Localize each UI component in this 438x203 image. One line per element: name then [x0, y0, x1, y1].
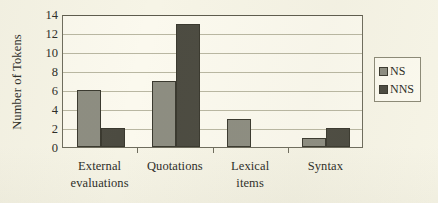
legend: NSNNS [374, 57, 421, 102]
y-axis-tick-labels: 02468101214 [30, 8, 58, 156]
legend-swatch-nns [379, 85, 388, 94]
bar-nns-3 [326, 128, 350, 147]
category-label-line1: Lexical [231, 159, 269, 173]
y-tick-label: 4 [30, 103, 58, 117]
y-tick-label: 8 [30, 65, 58, 79]
x-axis-ticks [62, 148, 363, 154]
x-tick [213, 148, 214, 153]
legend-label: NNS [390, 83, 414, 95]
legend-item-nns: NNS [379, 80, 420, 98]
y-tick-label: 6 [30, 84, 58, 98]
legend-swatch-ns [379, 67, 388, 76]
bar-ns-0 [77, 90, 101, 147]
legend-label: NS [390, 65, 405, 77]
bar-ns-1 [152, 81, 176, 148]
y-tick-label: 2 [30, 122, 58, 136]
category-label-line1: Quotations [147, 159, 203, 173]
bars-layer [63, 16, 362, 147]
y-axis-title: Number of Tokens [6, 14, 28, 150]
bar-chart-figure: Number of Tokens 02468101214 Externaleva… [0, 0, 438, 203]
legend-item-ns: NS [379, 62, 420, 80]
y-tick-label: 10 [30, 46, 58, 60]
category-label-line2: evaluations [54, 175, 145, 192]
y-tick-label: 0 [30, 141, 58, 155]
bar-nns-1 [176, 24, 200, 148]
y-axis-title-text: Number of Tokens [10, 34, 25, 130]
x-axis-category-labels: ExternalevaluationsQuotationsLexicalitem… [62, 158, 363, 202]
y-tick-label: 12 [30, 27, 58, 41]
plot-area [62, 15, 363, 148]
category-label-line2: items [205, 175, 296, 192]
category-label: Syntax [280, 158, 371, 175]
category-label-line1: External [78, 159, 121, 173]
bar-ns-3 [302, 138, 326, 148]
x-tick [288, 148, 289, 153]
category-label-line1: Syntax [308, 159, 343, 173]
bar-ns-2 [227, 119, 251, 148]
y-tick-label: 14 [30, 8, 58, 22]
bar-nns-0 [101, 128, 125, 147]
x-tick [137, 148, 138, 153]
